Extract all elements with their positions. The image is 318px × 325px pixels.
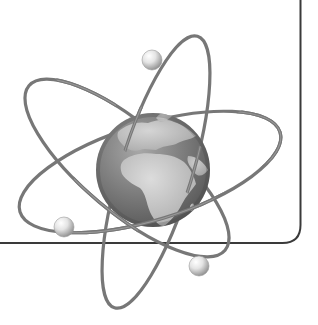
electron-left-icon xyxy=(54,217,74,237)
electron-bottom-right-icon xyxy=(189,256,209,276)
electron-top-icon xyxy=(142,50,162,70)
globe-atom-illustration xyxy=(0,0,318,325)
